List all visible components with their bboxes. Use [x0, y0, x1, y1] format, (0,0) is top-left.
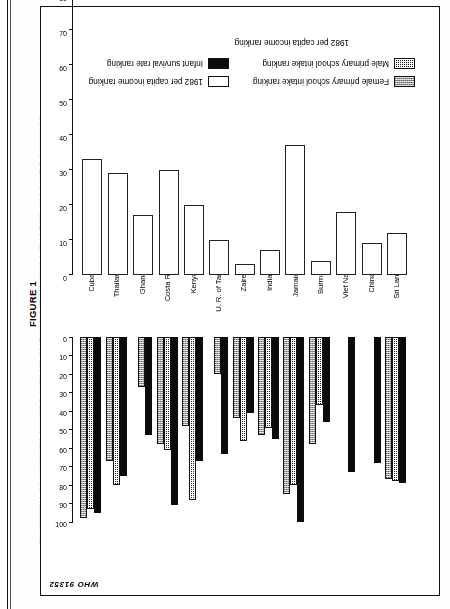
female-bar [138, 337, 145, 387]
country-label: Cuba [69, 279, 115, 333]
axis-tick-label: 70 [59, 31, 67, 38]
source-code: WHO 91352 [49, 580, 98, 589]
axis-tick-label: 40 [59, 136, 67, 143]
male-bar [164, 337, 171, 450]
bar-cluster [138, 337, 152, 522]
male-bar [265, 337, 272, 428]
axis-tick [69, 204, 73, 205]
country-label-text: Cuba [88, 274, 96, 292]
infant-bar [297, 337, 304, 522]
axis-tick [69, 99, 73, 100]
infant-bar [323, 337, 330, 422]
axis-tick [69, 393, 73, 394]
axis-tick-label: 60 [59, 66, 67, 73]
axis-tick [69, 169, 73, 170]
page-edge-line-secondary [10, 0, 11, 609]
axis-tick-label: 40 [59, 411, 67, 418]
income-bar [184, 205, 204, 275]
axis-tick [69, 64, 73, 65]
bar-cluster [80, 337, 101, 522]
upper-value-axis: 0102030405060708090100 [43, 337, 73, 522]
infant-bar [348, 337, 355, 472]
male-bar [189, 337, 196, 500]
axis-caption: 1982 per capita income ranking [235, 38, 349, 47]
female-bar [385, 337, 392, 479]
income-bar [209, 240, 229, 275]
bar-cluster [182, 337, 203, 522]
female-bar [233, 337, 240, 418]
female-bar [80, 337, 87, 518]
axis-tick-label: 90 [59, 503, 67, 510]
female-bar [157, 337, 164, 444]
axis-tick-label: 10 [59, 241, 67, 248]
male-bar [316, 337, 323, 405]
axis-tick-label: 10 [59, 355, 67, 362]
income-bar [260, 251, 280, 276]
income-bar [82, 160, 102, 276]
income-bar [133, 216, 153, 276]
axis-tick-label: 50 [59, 101, 67, 108]
axis-tick [69, 29, 73, 30]
axis-tick-label: 80 [59, 0, 67, 3]
infant-bar [374, 337, 381, 463]
infant-bar [145, 337, 152, 435]
female-bar [214, 337, 221, 374]
legend-label-male: Male primary school intake ranking [262, 59, 389, 68]
income-bar [285, 146, 305, 276]
axis-tick-label: 80 [59, 485, 67, 492]
axis-tick [69, 467, 73, 468]
country-label-band: Sri LankaChinaViet NamBurmaJamaicaIndiaZ… [79, 279, 409, 335]
axis-tick [69, 411, 73, 412]
axis-tick-label: 60 [59, 448, 67, 455]
female-bar [283, 337, 290, 494]
axis-tick [69, 522, 73, 523]
male-bar [113, 337, 120, 485]
income-bar [362, 244, 382, 276]
male-bar [392, 337, 399, 481]
axis-tick-label: 70 [59, 466, 67, 473]
female-bar [106, 337, 113, 461]
axis-tick [69, 134, 73, 135]
infant-bar [399, 337, 406, 483]
infant-bar [171, 337, 178, 505]
female-bar [309, 337, 316, 444]
axis-tick-label: 30 [59, 392, 67, 399]
figure-page: FIGURE 1 THIRTEEN COUNTRIES WHERE INFANT… [0, 0, 450, 609]
infant-bar [196, 337, 203, 461]
axis-tick [69, 448, 73, 449]
legend-item-infant: Infant survival rate ranking [107, 58, 229, 69]
infant-bar [221, 337, 228, 454]
income-ranking-plot [79, 75, 409, 275]
axis-tick-label: 100 [55, 522, 67, 529]
infant-swatch-icon [208, 58, 229, 69]
male-bar [240, 337, 247, 441]
upper-bar-plot [79, 337, 409, 522]
axis-tick [69, 356, 73, 357]
income-bar [311, 261, 331, 275]
income-bar [235, 265, 255, 276]
income-bar [159, 170, 179, 275]
bar-cluster [385, 337, 406, 522]
axis-tick-label: 0 [63, 337, 67, 344]
bar-cluster [233, 337, 254, 522]
income-bar [387, 233, 407, 275]
income-value-axis: 0102030405060708090100 [43, 75, 73, 275]
page-edge-line [7, 0, 8, 609]
infant-bar [247, 337, 254, 413]
axis-tick-label: 0 [63, 276, 67, 283]
bar-cluster [258, 337, 279, 522]
rotated-chart-content: WHO 91352 Female primary school intake r… [41, 7, 439, 595]
female-bar [182, 337, 189, 426]
bar-cluster [283, 337, 304, 522]
male-bar [290, 337, 297, 485]
infant-bar [120, 337, 127, 476]
bar-cluster [309, 337, 330, 522]
bar-cluster [214, 337, 228, 522]
axis-tick-label: 20 [59, 206, 67, 213]
axis-tick [69, 504, 73, 505]
axis-tick [69, 274, 73, 275]
bar-cluster [157, 337, 178, 522]
income-bar [108, 174, 128, 276]
male-swatch-icon [394, 58, 415, 69]
infant-bar [272, 337, 279, 439]
